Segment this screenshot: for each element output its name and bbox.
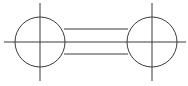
two-circle-link-diagram xyxy=(0,0,188,86)
